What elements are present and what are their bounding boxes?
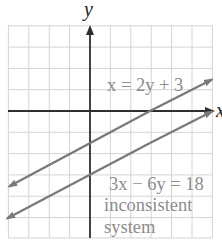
system-label: system <box>104 217 156 237</box>
line-3x-minus-6y-equals-18 <box>150 112 212 144</box>
inconsistent-label: inconsistent <box>104 195 193 215</box>
line1-label: x = 2y + 3 <box>107 75 183 95</box>
line2-label: 3x − 6y = 18 <box>109 174 204 194</box>
y-axis-label: y <box>82 0 93 21</box>
graph: y x x = 2y + 3 3x − 6y = 18 inconsistent… <box>0 0 222 244</box>
x-axis-label: x <box>215 99 222 121</box>
